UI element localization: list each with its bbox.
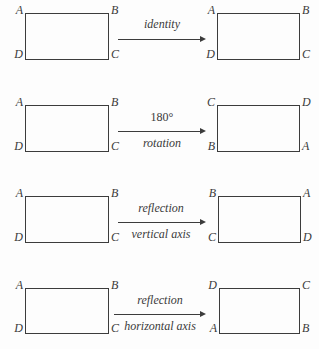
transformation-arrow-icon xyxy=(118,128,206,136)
source-rectangle: A B D C xyxy=(25,105,109,152)
vertex-label-top-right: D xyxy=(302,96,311,108)
target-rectangle: A B D C xyxy=(217,13,300,60)
vertex-label-bottom-left: D xyxy=(14,322,23,334)
vertex-label-top-right: B xyxy=(111,4,118,16)
vertex-label-top-left: A xyxy=(16,4,23,16)
arrow-head xyxy=(200,36,206,42)
transformation-label-upper: identity xyxy=(112,18,212,31)
vertex-label-top-left: A xyxy=(16,96,23,108)
vertex-label-top-left: A xyxy=(208,4,215,16)
source-rectangle: A B D C xyxy=(25,196,109,243)
target-rectangle: D C A B xyxy=(219,288,300,334)
source-rectangle: A B D C xyxy=(25,13,109,60)
vertex-label-top-right: A xyxy=(303,187,310,199)
arrow-head xyxy=(200,128,206,134)
transformation-label-upper: reflection xyxy=(108,294,212,307)
arrow-shaft xyxy=(118,222,202,223)
vertex-label-bottom-left: D xyxy=(14,231,23,243)
vertex-label-top-right: B xyxy=(302,4,309,16)
vertex-label-bottom-right: C xyxy=(302,48,310,60)
vertex-label-top-left: B xyxy=(209,187,216,199)
vertex-label-bottom-left: B xyxy=(208,140,215,152)
transformation-label-lower: rotation xyxy=(112,137,212,150)
vertex-label-bottom-left: A xyxy=(210,322,217,334)
transformation-arrow-icon xyxy=(118,219,206,227)
arrow-shaft xyxy=(114,314,202,315)
vertex-label-bottom-right: D xyxy=(303,231,312,243)
target-rectangle: C D B A xyxy=(217,105,300,152)
vertex-label-bottom-right: C xyxy=(111,48,119,60)
arrow-head xyxy=(200,219,206,225)
transformation-row-reflection-horizontal-axis: A B D C reflection horizontal axis D C A… xyxy=(0,275,319,349)
vertex-label-bottom-right: A xyxy=(302,140,309,152)
vertex-label-top-left: D xyxy=(208,279,217,291)
arrow-shaft xyxy=(118,131,202,132)
arrow-shaft xyxy=(118,39,202,40)
source-rectangle: A B D C xyxy=(25,288,109,334)
vertex-label-bottom-left: D xyxy=(14,140,23,152)
vertex-label-bottom-left: D xyxy=(206,48,215,60)
transformation-arrow-icon xyxy=(114,311,206,319)
vertex-label-top-right: C xyxy=(302,279,310,291)
vertex-label-bottom-right: B xyxy=(302,322,309,334)
rectangle-symmetries-figure: A B D C identity A B D C A B D C 180° r xyxy=(0,0,319,349)
vertex-label-top-left: A xyxy=(16,187,23,199)
target-rectangle: B A C D xyxy=(218,196,301,243)
transformation-row-reflection-vertical-axis: A B D C reflection vertical axis B A C D xyxy=(0,183,319,271)
transformation-row-identity: A B D C identity A B D C xyxy=(0,0,319,88)
transformation-arrow-icon xyxy=(118,36,206,44)
vertex-label-bottom-left: C xyxy=(208,231,216,243)
vertex-label-bottom-left: D xyxy=(14,48,23,60)
vertex-label-top-left: C xyxy=(207,96,215,108)
transformation-label-lower: horizontal axis xyxy=(108,320,212,333)
transformation-row-rotation-180: A B D C 180° rotation C D B A xyxy=(0,92,319,180)
vertex-label-top-left: A xyxy=(16,279,23,291)
transformation-label-upper: 180° xyxy=(112,111,212,124)
arrow-head xyxy=(200,311,206,317)
vertex-label-top-right: B xyxy=(111,96,118,108)
transformation-label-lower: vertical axis xyxy=(110,228,212,241)
vertex-label-top-right: B xyxy=(111,187,118,199)
transformation-label-upper: reflection xyxy=(110,202,212,215)
vertex-label-top-right: B xyxy=(111,279,118,291)
